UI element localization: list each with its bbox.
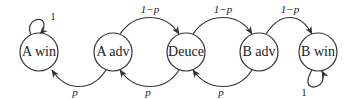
edge-label-a-win-self: 1 [50,10,56,22]
markov-diagram: 1 1−p 1−p 1−p p p p 1 A win A adv Deuce … [0,0,349,99]
edge-label-b-adv-deuce: p [217,86,224,98]
state-b-adv: B adv [240,33,278,71]
edge-b-adv-deuce [193,70,252,87]
edge-deuce-b-adv [193,18,252,35]
state-label: A adv [96,44,129,59]
state-label: B adv [242,44,275,59]
state-label: A win [22,44,56,59]
state-label: Deuce [168,44,204,59]
edge-a-adv-a-win [52,70,106,87]
edge-label-deuce-b-adv: 1−p [214,3,233,15]
state-a-adv: A adv [94,33,132,71]
edge-a-adv-deuce [120,18,179,35]
edge-b-adv-b-win [266,18,312,35]
state-label: B win [301,44,335,59]
edge-label-b-adv-b-win: 1−p [281,3,300,15]
state-deuce: Deuce [167,33,205,71]
edge-deuce-a-adv [120,70,179,87]
edge-label-b-win-self: 1 [301,86,307,98]
state-a-win: A win [20,33,58,71]
edge-label-a-adv-deuce: 1−p [141,3,160,15]
edge-label-deuce-a-adv: p [144,86,151,98]
state-b-win: B win [299,33,337,71]
edge-b-win-self [308,70,323,87]
edge-label-a-adv-a-win: p [71,86,78,98]
